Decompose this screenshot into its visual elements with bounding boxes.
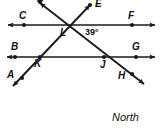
point-dot-F [130, 23, 134, 27]
point-label-C: C [19, 11, 26, 21]
point-label-G: G [132, 42, 140, 52]
point-label-J: J [100, 60, 106, 70]
figure-caption: North [112, 112, 139, 123]
point-label-K: K [34, 59, 41, 69]
point-label-B: B [11, 42, 18, 52]
point-dot-A [20, 76, 24, 80]
angle-measure-label: 39° [85, 28, 99, 37]
point-label-H: H [118, 71, 125, 81]
point-label-D: D [37, 0, 44, 4]
point-label-L: L [60, 28, 66, 38]
points-group [13, 0, 138, 80]
point-dot-B [13, 55, 17, 59]
point-dot-G [134, 55, 138, 59]
point-label-E: E [95, 0, 102, 9]
point-label-A: A [7, 70, 14, 80]
point-label-F: F [128, 11, 134, 21]
point-dot-C [22, 23, 26, 27]
point-dot-H [130, 72, 134, 76]
geometry-figure: A B C D E F G H J K L 39° North [0, 0, 163, 131]
point-dot-E [88, 3, 92, 7]
